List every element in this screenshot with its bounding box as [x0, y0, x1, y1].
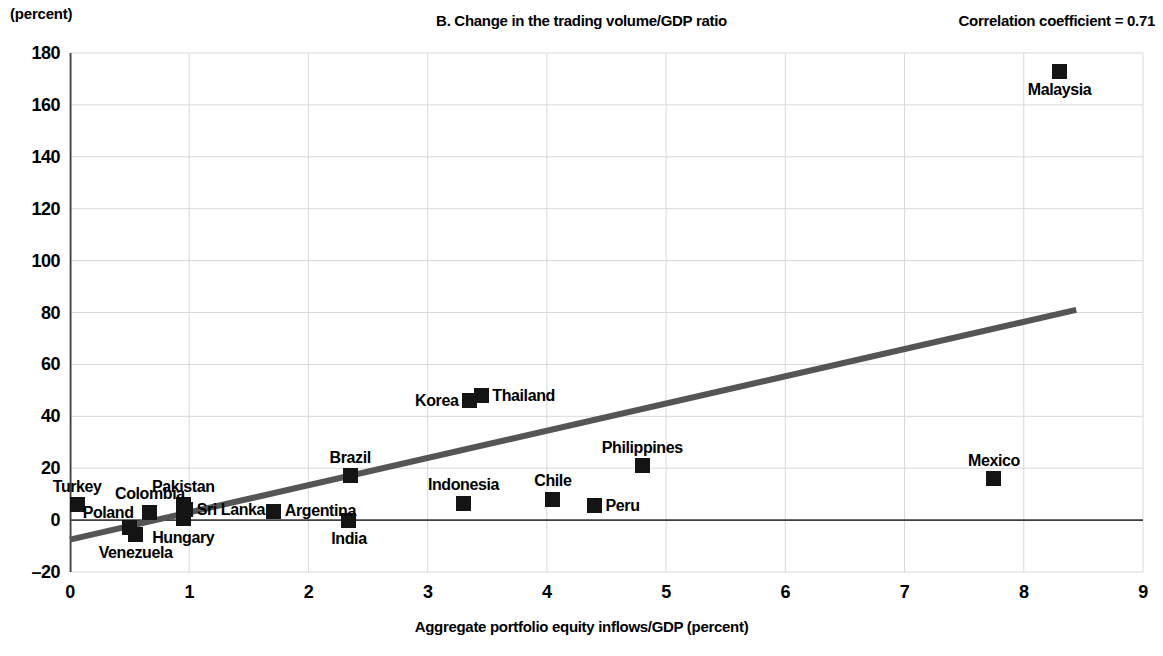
- x-axis-tick-label: 8: [994, 582, 1054, 603]
- y-axis-tick-label: 180: [2, 43, 60, 64]
- x-axis-tick-label: 9: [1113, 582, 1163, 603]
- y-axis-tick-label: 60: [2, 354, 60, 375]
- data-point-marker: [142, 505, 157, 520]
- data-point-label: Philippines: [602, 440, 683, 456]
- data-point-marker: [587, 498, 602, 513]
- data-point-label: Indonesia: [428, 477, 499, 493]
- x-axis-tick-label: 1: [159, 582, 219, 603]
- y-axis-tick-label: 100: [2, 250, 60, 271]
- plot-svg: [70, 53, 1143, 572]
- data-point-marker: [1052, 64, 1067, 79]
- y-axis-tick-label: 0: [2, 510, 60, 531]
- x-axis-tick-label: 3: [398, 582, 458, 603]
- correlation-coefficient-annotation: Correlation coefficient = 0.71: [959, 12, 1155, 29]
- data-point-label: Chile: [534, 473, 571, 489]
- data-point-marker: [178, 502, 193, 517]
- data-point-marker: [545, 492, 560, 507]
- data-point-label: Poland: [83, 505, 134, 521]
- data-point-marker: [266, 504, 281, 519]
- data-point-label: Hungary: [152, 530, 214, 546]
- data-point-marker: [456, 496, 471, 511]
- x-axis-tick-label: 2: [278, 582, 338, 603]
- data-point-label: Sri Lanka: [197, 502, 265, 518]
- y-axis-tick-label: –20: [2, 562, 60, 583]
- data-point-marker: [986, 471, 1001, 486]
- y-axis-tick-label: 80: [2, 302, 60, 323]
- data-point-label: Turkey: [53, 479, 102, 495]
- chart-figure: (percent) B. Change in the trading volum…: [0, 0, 1163, 656]
- x-axis-tick-label: 0: [40, 582, 100, 603]
- y-axis-tick-label: 160: [2, 94, 60, 115]
- data-point-marker: [128, 527, 143, 542]
- y-axis-tick-label: 140: [2, 146, 60, 167]
- data-point-marker: [635, 458, 650, 473]
- data-point-label: India: [331, 531, 366, 547]
- x-axis-tick-label: 5: [636, 582, 696, 603]
- x-axis-tick-label: 6: [755, 582, 815, 603]
- data-point-label: Thailand: [492, 388, 555, 404]
- data-point-label: Brazil: [330, 450, 371, 466]
- plot-area: TurkeyPolandVenezuelaColombiaPakistanHun…: [70, 53, 1143, 572]
- data-point-marker: [343, 468, 358, 483]
- x-axis-title: Aggregate portfolio equity inflows/GDP (…: [0, 618, 1163, 635]
- y-axis-tick-label: 120: [2, 198, 60, 219]
- x-axis-tick-label: 7: [875, 582, 935, 603]
- data-point-label: Peru: [606, 498, 640, 514]
- data-point-label: Venezuela: [99, 545, 173, 561]
- y-axis-tick-label: 20: [2, 458, 60, 479]
- y-axis-tick-label: 40: [2, 406, 60, 427]
- x-axis-tick-label: 4: [517, 582, 577, 603]
- data-point-label: Argentina: [285, 503, 356, 519]
- data-point-label: Mexico: [968, 453, 1020, 469]
- data-point-label: Korea: [415, 393, 458, 409]
- horizontal-gridlines: [70, 53, 1143, 572]
- data-point-marker: [474, 388, 489, 403]
- data-point-label: Malaysia: [1028, 82, 1092, 98]
- data-point-label: Pakistan: [152, 479, 215, 495]
